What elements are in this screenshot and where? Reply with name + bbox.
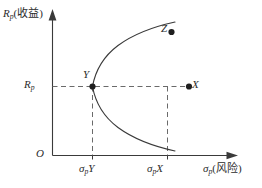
x-tick-sigma-p-x-tail: X [156, 162, 163, 174]
x-tick-sigma-p-y-tail: Y [88, 162, 94, 174]
x-axis-label: σp(风险) [203, 163, 242, 175]
y-axis-label-tail: (收益) [14, 7, 43, 19]
point-label-x-text: X [192, 78, 199, 90]
origin-label: O [36, 148, 44, 159]
y-axis-label: Rp(收益) [3, 8, 43, 20]
point-marker-y [89, 83, 95, 89]
point-label-y: Y [83, 69, 89, 80]
y-tick-label-rp: Rp [24, 79, 35, 91]
point-label-y-text: Y [83, 68, 89, 80]
y-tick-label-rp-sub: p [31, 83, 35, 92]
x-axis-arrowhead [227, 152, 239, 160]
x-tick-label-sigma-p-y: σpY [79, 163, 94, 175]
point-label-x: X [192, 79, 199, 90]
x-axis-label-tail: (风险) [212, 162, 241, 174]
y-tick-label-rp-base: R [24, 78, 31, 90]
point-label-z: Z [161, 23, 167, 34]
risk-return-frontier-figure: Rp(收益) σp(风险) Rp O σpY σpX Y X Z [0, 0, 262, 188]
y-axis-label-base: R [3, 7, 10, 19]
y-axis-arrowhead [49, 9, 57, 21]
figure-canvas [0, 0, 262, 188]
point-marker-z [168, 29, 174, 35]
origin-label-text: O [36, 147, 44, 159]
x-tick-label-sigma-p-x: σpX [147, 163, 163, 175]
point-label-z-text: Z [161, 22, 167, 34]
frontier-curve-lower [93, 87, 176, 152]
